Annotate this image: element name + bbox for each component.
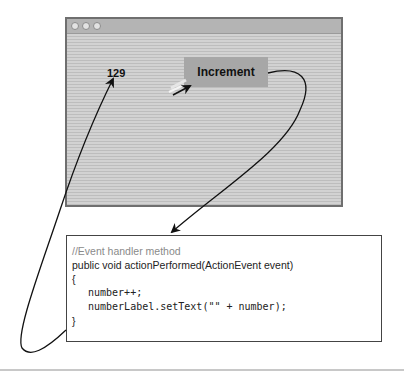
close-window-button[interactable] [71, 22, 79, 30]
method-signature: public void actionPerformed(ActionEvent … [72, 258, 381, 272]
open-brace: { [72, 272, 381, 286]
gui-window: 129 Increment [65, 17, 343, 207]
divider [0, 369, 404, 371]
code-statement: number++; [72, 286, 381, 300]
close-brace: } [72, 314, 381, 328]
minimize-window-button[interactable] [82, 22, 90, 30]
window-titlebar [67, 19, 341, 34]
code-statement: numberLabel.setText("" + number); [72, 300, 381, 314]
increment-button[interactable]: Increment [184, 57, 268, 87]
event-handler-code: //Event handler method public void actio… [66, 235, 382, 342]
zoom-window-button[interactable] [93, 22, 101, 30]
number-label: 129 [107, 67, 125, 79]
code-comment: //Event handler method [72, 244, 381, 258]
